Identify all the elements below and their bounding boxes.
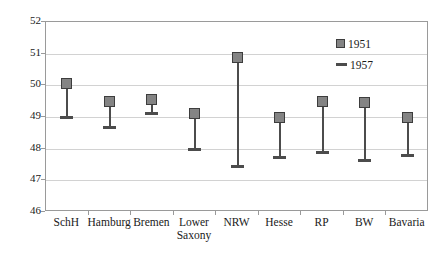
data-marker-1951[interactable] (61, 78, 72, 89)
data-marker-1957[interactable] (358, 159, 371, 162)
y-tick-label: 51 (1, 47, 41, 58)
x-tick-label: Bavaria (385, 216, 428, 229)
x-tick-label: BW (343, 216, 386, 229)
range-connector (364, 103, 366, 160)
range-connector (322, 101, 324, 152)
y-tick-mark (41, 179, 45, 180)
x-tick-label: RP (300, 216, 343, 229)
legend-item-1957[interactable]: 1957 (336, 54, 422, 75)
y-tick-mark (41, 116, 45, 117)
data-marker-1957[interactable] (316, 151, 329, 154)
y-tick-mark (41, 53, 45, 54)
x-tick-label: SchH (45, 216, 88, 229)
x-tick-mark (343, 211, 344, 215)
y-tick-mark (41, 21, 45, 22)
data-marker-1957[interactable] (145, 112, 158, 115)
y-tick-label: 50 (1, 78, 41, 89)
chart-container: 46474849505152 SchHHamburgBremenLower Sa… (0, 0, 447, 259)
y-tick-label: 47 (1, 173, 41, 184)
legend-item-1951[interactable]: 1951 (336, 33, 422, 54)
range-connector (407, 118, 409, 155)
y-axis: 46474849505152 (0, 21, 41, 211)
data-marker-1957[interactable] (273, 156, 286, 159)
x-tick-label: Lower Saxony (173, 216, 216, 242)
y-tick-mark (41, 211, 45, 212)
x-tick-mark (130, 211, 131, 215)
x-tick-label: Hesse (258, 216, 301, 229)
data-marker-1951[interactable] (402, 112, 413, 123)
data-marker-1957[interactable] (401, 154, 414, 157)
gridline (46, 180, 427, 181)
x-tick-label: Bremen (130, 216, 173, 229)
data-marker-1951[interactable] (317, 96, 328, 107)
range-connector (237, 58, 239, 167)
y-tick-label: 49 (1, 110, 41, 121)
x-tick-label: Hamburg (88, 216, 131, 229)
data-marker-1951[interactable] (232, 52, 243, 63)
data-marker-1957[interactable] (60, 116, 73, 119)
dash-marker-icon (336, 63, 347, 66)
x-tick-mark (88, 211, 89, 215)
range-connector (279, 117, 281, 157)
x-tick-label: NRW (215, 216, 258, 229)
x-tick-mark (300, 211, 301, 215)
data-marker-1951[interactable] (189, 108, 200, 119)
y-tick-label: 46 (1, 205, 41, 216)
legend-label-1957: 1957 (350, 59, 373, 71)
y-tick-mark (41, 84, 45, 85)
x-tick-mark (215, 211, 216, 215)
legend-label-1951: 1951 (348, 38, 371, 50)
x-tick-mark (173, 211, 174, 215)
y-tick-label: 48 (1, 142, 41, 153)
data-marker-1957[interactable] (103, 126, 116, 129)
y-tick-mark (41, 148, 45, 149)
data-marker-1957[interactable] (231, 165, 244, 168)
x-tick-mark (385, 211, 386, 215)
x-tick-mark (258, 211, 259, 215)
y-tick-label: 52 (1, 15, 41, 26)
legend: 1951 1957 (336, 33, 422, 75)
data-marker-1951[interactable] (359, 97, 370, 108)
data-marker-1951[interactable] (274, 112, 285, 123)
data-marker-1957[interactable] (188, 148, 201, 151)
data-marker-1951[interactable] (104, 96, 115, 107)
data-marker-1951[interactable] (146, 94, 157, 105)
square-marker-icon (336, 39, 345, 48)
